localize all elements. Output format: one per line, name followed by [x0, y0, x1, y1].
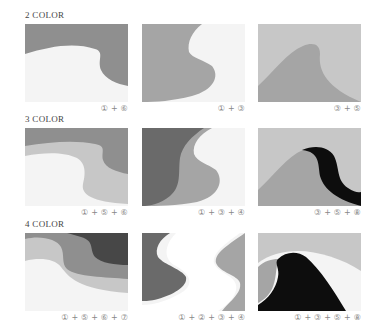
swatch-3color-1-3-4: [142, 128, 245, 206]
wave-shape-icon: [258, 233, 361, 311]
swatch-4color-1-2-3-4: [142, 233, 245, 311]
caption-4color-1: ① + ⑤ + ⑥ + ⑦: [25, 313, 128, 322]
swatch-4color-1-3-5-8: [258, 233, 361, 311]
section-label-3-color: 3 COLOR: [25, 114, 64, 124]
swatch-2color-1-3: [142, 24, 245, 102]
caption-3color-1: ① + ⑤ + ⑥: [25, 208, 128, 217]
swatch-2color-1-6: [25, 24, 128, 102]
wave-shape-icon: [25, 233, 128, 311]
wave-shape-icon: [25, 128, 128, 206]
caption-2color-1: ① + ⑥: [25, 104, 128, 113]
caption-4color-3: ① + ③ + ⑤ + ⑧: [258, 313, 361, 322]
section-label-2-color: 2 COLOR: [25, 10, 64, 20]
swatch-3color-3-5-8: [258, 128, 361, 206]
caption-2color-3: ③ + ⑤: [258, 104, 361, 113]
swatch-2color-3-5: [258, 24, 361, 102]
wave-shape-icon: [142, 24, 245, 102]
swatch-3color-1-5-6: [25, 128, 128, 206]
wave-shape-icon: [142, 233, 245, 311]
swatch-4color-1-5-6-7: [25, 233, 128, 311]
wave-shape-icon: [258, 24, 361, 102]
caption-3color-3: ③ + ⑤ + ⑧: [258, 208, 361, 217]
caption-2color-2: ① + ③: [142, 104, 245, 113]
wave-shape-icon: [25, 24, 128, 102]
caption-4color-2: ① + ② + ③ + ④: [142, 313, 245, 322]
section-label-4-color: 4 COLOR: [25, 219, 64, 229]
wave-shape-icon: [142, 128, 245, 206]
wave-shape-icon: [258, 128, 361, 206]
caption-3color-2: ① + ③ + ④: [142, 208, 245, 217]
